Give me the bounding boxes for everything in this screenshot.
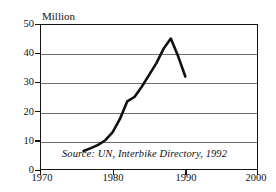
x-tick-label-2000: 2000 xyxy=(236,172,276,183)
y-tick-label-40: 40 xyxy=(0,48,34,58)
y-tick-label-50: 50 xyxy=(0,19,34,29)
source-note: Source: UN, Interbike Directory, 1992 xyxy=(62,148,227,160)
y-tick-mark-40 xyxy=(35,53,41,54)
chart-figure: Million 50 40 30 20 10 0 1970 1980 1990 … xyxy=(0,0,276,192)
gridline-30 xyxy=(41,83,257,84)
y-tick-mark-20 xyxy=(35,111,41,112)
gridline-10 xyxy=(41,142,257,143)
y-tick-mark-50 xyxy=(35,24,41,25)
x-tick-label-1980: 1980 xyxy=(93,172,133,183)
y-axis-unit-label: Million xyxy=(42,10,75,22)
gridline-40 xyxy=(41,54,257,55)
y-tick-mark-10 xyxy=(35,140,41,141)
y-tick-label-10: 10 xyxy=(0,136,34,146)
gridline-20 xyxy=(41,113,257,114)
x-tick-label-1990: 1990 xyxy=(166,172,206,183)
y-tick-mark-30 xyxy=(35,82,41,83)
y-tick-label-20: 20 xyxy=(0,107,34,117)
y-tick-label-30: 30 xyxy=(0,77,34,87)
x-tick-label-1970: 1970 xyxy=(22,172,62,183)
